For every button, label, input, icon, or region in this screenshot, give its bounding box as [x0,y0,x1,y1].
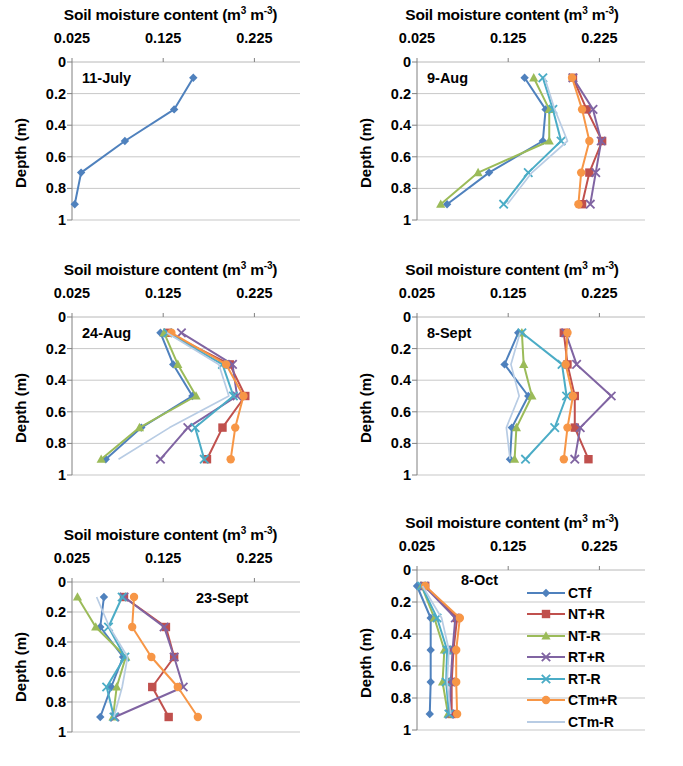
series-line-rt-r [504,78,561,204]
data-point-marker [574,200,582,208]
legend-label: NT-R [568,628,601,644]
data-point-marker [568,74,576,82]
panel-title: 11-July [82,70,131,86]
plot-area [341,0,682,260]
legend-marker-x-icon [526,672,566,686]
data-point-marker [222,360,230,368]
legend-marker-diamond-icon [526,586,566,600]
legend-item-rt-r[interactable]: RT+R [526,647,617,669]
data-point-marker [453,710,461,718]
legend-item-nt-r[interactable]: NT-R [526,625,617,647]
plot-canvas [341,0,682,265]
data-point-marker [452,678,460,686]
data-point-marker [584,455,592,463]
data-point-marker [561,360,569,368]
plot-area [341,520,682,766]
legend-marker-square-icon [526,607,566,621]
data-point-marker [96,713,104,721]
panel-title: 23-Sept [196,590,248,606]
panel-8-oct: Soil moisture content (m3 m-3) 0.0250.12… [341,520,683,766]
data-point-marker [426,646,434,654]
plot-area [0,0,341,260]
data-point-marker [563,423,571,431]
data-point-marker [184,423,192,431]
data-point-marker [156,455,164,463]
data-point-marker [578,105,586,113]
data-point-marker [174,683,182,691]
data-point-marker [130,593,138,601]
legend-marker-none-icon [526,715,566,729]
legend: CTfNT+RNT-RRT+RRT-RCTm+RCTm-R [526,582,617,733]
figure-panel-grid: Soil moisture content (m3 m-3) 0.0250.12… [0,0,683,766]
panel-24-aug: Soil moisture content (m3 m-3) 0.0250.12… [0,255,341,520]
legend-marker-x-icon [526,650,566,664]
legend-label: NT+R [568,606,605,622]
data-point-marker [147,653,155,661]
data-point-marker [560,455,568,463]
series-line-ctf [75,78,194,204]
data-point-marker [585,137,593,145]
data-point-marker [607,392,615,400]
data-point-marker [521,455,529,463]
data-point-marker [519,360,528,368]
data-point-marker [563,329,571,337]
data-point-marker [148,683,156,691]
panel-8-sept: Soil moisture content (m3 m-3) 0.0250.12… [341,255,683,520]
legend-item-ctm-r[interactable]: CTm-R [526,711,617,733]
legend-marker-triangle-icon [526,629,566,643]
panel-23-sept: Soil moisture content (m3 m-3) 0.0250.12… [0,520,341,766]
data-point-marker [426,678,434,686]
legend-item-nt-r[interactable]: NT+R [526,604,617,626]
panel-title: 8-Sept [427,325,471,341]
legend-label: RT+R [568,649,605,665]
data-point-marker [239,392,247,400]
legend-item-rt-r[interactable]: RT-R [526,668,617,690]
legend-marker-circle-icon [526,693,566,707]
data-point-marker [100,593,108,601]
plot-area [341,255,682,515]
data-point-marker [177,329,185,337]
panel-title: 8-Oct [461,572,498,588]
legend-item-ctm-r[interactable]: CTm+R [526,690,617,712]
data-point-marker [194,713,202,721]
legend-label: CTm-R [568,714,614,730]
plot-area [0,520,341,766]
plot-canvas [341,255,682,520]
plot-canvas [0,0,341,265]
data-point-marker [426,710,434,718]
data-point-marker [452,646,460,654]
plot-canvas [0,255,341,520]
series-line-ctm-r [506,333,520,459]
data-point-marker [128,623,136,631]
panel-title: 24-Aug [82,325,131,341]
data-point-marker [456,614,464,622]
data-point-marker [529,73,538,81]
data-point-marker [73,592,82,600]
legend-label: CTm+R [568,692,617,708]
panel-9-aug: Soil moisture content (m3 m-3) 0.0250.12… [341,0,683,255]
legend-label: RT-R [568,671,601,687]
data-point-marker [499,200,507,208]
series-line-ctm-r [132,597,198,717]
series-line-nt-r [441,78,550,204]
data-point-marker [164,713,172,721]
panel-title: 9-Aug [427,70,468,86]
legend-label: CTf [568,585,591,601]
data-point-marker [569,392,577,400]
data-point-marker [231,423,239,431]
legend-item-ctf[interactable]: CTf [526,582,617,604]
plot-canvas [0,520,341,766]
data-point-marker [218,423,226,431]
data-point-marker [551,423,559,431]
plot-area [0,255,341,515]
panel-11-july: Soil moisture content (m3 m-3) 0.0250.12… [0,0,341,255]
plot-canvas [341,520,682,766]
data-point-marker [226,455,234,463]
data-point-marker [577,168,585,176]
